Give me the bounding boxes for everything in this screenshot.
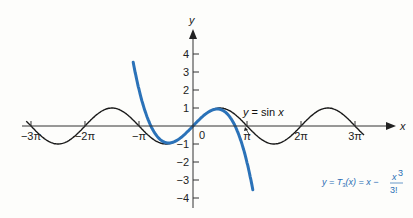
chart-canvas: x y −3π−2π−ππ2π3π −4−3−2−11234 0 y = sin… [0,0,413,218]
y-tick-label: 3 [183,66,189,78]
x-axis-arrow-icon [386,122,396,130]
y-axis-arrow-icon [189,29,197,39]
x-tick-label: −2π [75,130,96,142]
taylor-curve-label: y = T3(x) = x − x 3 3! [321,168,403,195]
y-tick-label: −4 [176,192,189,204]
sin-curve-label: y = sin x [242,106,284,118]
y-tick-label: −2 [176,156,189,168]
x-axis-label: x [399,120,406,132]
y-tick-label: 1 [183,102,189,114]
svg-text:x: x [391,172,397,182]
x-tick-label: 2π [294,130,308,142]
svg-text:3: 3 [398,168,403,178]
y-tick-label: 4 [183,48,189,60]
y-axis-label: y [188,14,196,26]
x-tick-label: −3π [21,130,42,142]
y-tick-label: −1 [176,138,189,150]
svg-text:3!: 3! [390,185,398,195]
x-tick-label: −π [132,130,146,142]
y-tick-label: −3 [176,174,189,186]
svg-text:y = T3(x) = x −: y = T3(x) = x − [321,177,379,188]
origin-label: 0 [199,129,205,141]
y-tick-label: 2 [183,84,189,96]
x-tick-label: 3π [348,130,362,142]
